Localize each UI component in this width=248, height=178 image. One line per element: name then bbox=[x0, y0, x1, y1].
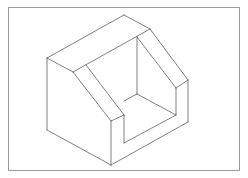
top-back-left-edge bbox=[47, 15, 124, 58]
left-slope-inner-edge bbox=[86, 65, 124, 115]
channel-floor-right-edge bbox=[137, 94, 176, 115]
channel-floor-back-edge bbox=[124, 94, 137, 101]
right-step-top-edge bbox=[176, 80, 188, 88]
left-slope-outer-edge bbox=[73, 72, 111, 121]
channel-floor-front-edge bbox=[124, 115, 176, 143]
bottom-right-edge bbox=[111, 122, 188, 165]
isometric-block-drawing bbox=[0, 0, 248, 178]
top-front-edge bbox=[73, 29, 150, 72]
bottom-left-edge bbox=[47, 130, 111, 165]
right-slope-outer-edge bbox=[150, 29, 188, 80]
top-back-right-edge bbox=[124, 15, 150, 29]
top-front-left-edge bbox=[47, 58, 73, 72]
right-slope-inner-edge bbox=[137, 37, 176, 88]
left-step-top-edge bbox=[111, 115, 124, 121]
